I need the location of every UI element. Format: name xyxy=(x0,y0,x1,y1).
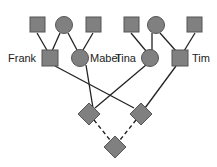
person-square-frank xyxy=(42,50,58,66)
person-diamond-child2 xyxy=(130,103,152,125)
link-child2-grandchild-dashed xyxy=(120,120,136,140)
person-square-gp4 xyxy=(124,17,139,32)
link-gp5-tim xyxy=(160,33,176,51)
link-mabel-child1 xyxy=(86,65,93,108)
link-tim-child2 xyxy=(145,66,176,108)
pedigree-diagram xyxy=(0,0,217,167)
person-square-tim xyxy=(172,50,188,66)
person-circle-tina xyxy=(142,50,159,67)
person-square-gp3 xyxy=(86,17,101,32)
link-gp2-frank xyxy=(52,33,60,51)
person-circle-mabel xyxy=(72,50,89,67)
link-child1-grandchild-dashed xyxy=(94,120,110,140)
person-circle-gp5 xyxy=(148,17,165,34)
link-gp6-tim xyxy=(184,33,195,51)
link-frank-child2 xyxy=(55,66,134,108)
label-frank: Frank xyxy=(8,52,36,64)
link-gp4-tina xyxy=(131,33,146,51)
label-tina: Tina xyxy=(115,52,136,64)
person-square-gp1 xyxy=(30,17,45,32)
person-diamond-grandchild xyxy=(104,136,126,158)
link-gp1-frank xyxy=(37,33,48,52)
person-square-gp6 xyxy=(187,17,202,32)
link-gp2-mabel xyxy=(68,33,77,50)
person-circle-gp2 xyxy=(56,17,73,34)
link-gp3-mabel xyxy=(83,33,93,50)
label-tim: Tim xyxy=(192,52,210,64)
